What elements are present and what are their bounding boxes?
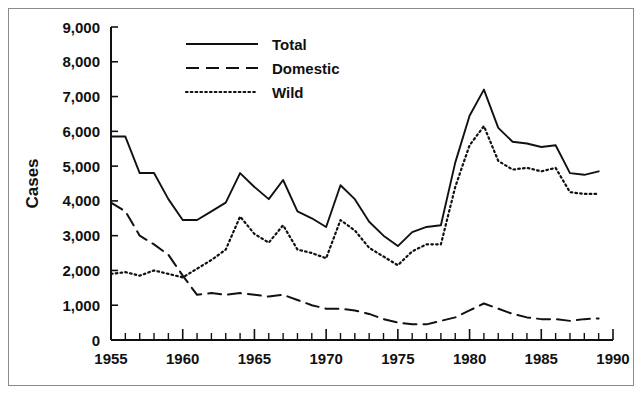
y-tick-label: 5,000: [62, 158, 100, 175]
x-tick-label: 1975: [381, 350, 414, 367]
x-tick-label: 1955: [94, 350, 127, 367]
y-tick-label: 7,000: [62, 88, 100, 105]
y-tick-label: 6,000: [62, 123, 100, 140]
line-chart: 01,0002,0003,0004,0005,0006,0007,0008,00…: [0, 0, 644, 396]
legend-label-wild: Wild: [272, 84, 304, 101]
x-tick-label: 1960: [166, 350, 199, 367]
y-tick-label: 3,000: [62, 227, 100, 244]
y-tick-label: 2,000: [62, 262, 100, 279]
y-tick-label: 0: [92, 332, 100, 349]
x-tick-label: 1980: [453, 350, 486, 367]
legend-label-domestic: Domestic: [272, 60, 340, 77]
chart-root: 01,0002,0003,0004,0005,0006,0007,0008,00…: [0, 0, 644, 396]
series-line-wild: [111, 126, 599, 277]
y-tick-label: 9,000: [62, 19, 100, 36]
legend-label-total: Total: [272, 36, 307, 53]
x-tick-label: 1990: [596, 350, 629, 367]
y-axis-title: Cases: [23, 158, 42, 208]
x-tick-label: 1985: [525, 350, 558, 367]
y-tick-label: 8,000: [62, 53, 100, 70]
x-tick-label: 1965: [238, 350, 271, 367]
y-tick-label: 1,000: [62, 297, 100, 314]
y-tick-label: 4,000: [62, 192, 100, 209]
x-tick-label: 1970: [309, 350, 342, 367]
